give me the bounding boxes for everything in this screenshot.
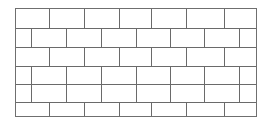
brick-1-3 bbox=[84, 8, 119, 28]
brick-2-3 bbox=[66, 28, 101, 47]
brick-6-3 bbox=[84, 102, 119, 116]
brick-faces-layer bbox=[15, 8, 256, 116]
brick-2-1 bbox=[15, 28, 31, 47]
brick-3-1 bbox=[15, 47, 49, 66]
brick-4-1 bbox=[15, 66, 31, 84]
brick-3-2 bbox=[49, 47, 84, 66]
figure-canvas bbox=[0, 0, 269, 125]
brick-4-8 bbox=[239, 66, 256, 84]
brick-4-5 bbox=[136, 66, 170, 84]
brick-5-6 bbox=[170, 84, 204, 102]
brick-5-2 bbox=[31, 84, 66, 102]
brick-wall-drawing bbox=[0, 0, 269, 125]
brick-5-3 bbox=[66, 84, 101, 102]
brick-6-5 bbox=[151, 102, 186, 116]
brick-2-6 bbox=[170, 28, 204, 47]
brick-5-1 bbox=[15, 84, 31, 102]
brick-1-4 bbox=[119, 8, 151, 28]
brick-2-5 bbox=[136, 28, 170, 47]
brick-4-3 bbox=[66, 66, 101, 84]
brick-3-5 bbox=[151, 47, 186, 66]
brick-6-4 bbox=[119, 102, 151, 116]
brick-6-1 bbox=[15, 102, 49, 116]
brick-5-5 bbox=[136, 84, 170, 102]
brick-2-2 bbox=[31, 28, 66, 47]
brick-2-8 bbox=[239, 28, 256, 47]
brick-4-6 bbox=[170, 66, 204, 84]
brick-4-2 bbox=[31, 66, 66, 84]
brick-1-5 bbox=[151, 8, 186, 28]
brick-2-4 bbox=[101, 28, 136, 47]
brick-2-7 bbox=[204, 28, 239, 47]
brick-3-7 bbox=[224, 47, 256, 66]
brick-6-6 bbox=[186, 102, 224, 116]
brick-5-8 bbox=[239, 84, 256, 102]
brick-1-6 bbox=[186, 8, 224, 28]
brick-1-2 bbox=[49, 8, 84, 28]
brick-4-4 bbox=[101, 66, 136, 84]
brick-1-1 bbox=[15, 8, 49, 28]
brick-5-4 bbox=[101, 84, 136, 102]
brick-5-7 bbox=[204, 84, 239, 102]
brick-1-7 bbox=[224, 8, 256, 28]
brick-4-7 bbox=[204, 66, 239, 84]
brick-6-2 bbox=[49, 102, 84, 116]
brick-3-6 bbox=[186, 47, 224, 66]
brick-3-3 bbox=[84, 47, 119, 66]
brick-6-7 bbox=[224, 102, 256, 116]
brick-3-4 bbox=[119, 47, 151, 66]
